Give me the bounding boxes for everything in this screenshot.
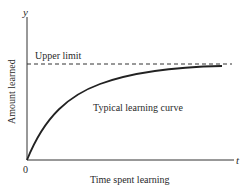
y-axis-title: Amount learned <box>6 59 17 124</box>
x-axis-title: Time spent learning <box>90 174 170 185</box>
upper-limit-label: Upper limit <box>35 50 82 61</box>
origin-label: 0 <box>23 164 28 175</box>
learning-curve-chart: y t 0 Upper limit Typical learning curve… <box>0 0 249 195</box>
curve-label: Typical learning curve <box>93 102 183 113</box>
x-axis-symbol: t <box>236 154 240 166</box>
learning-curve <box>27 66 222 160</box>
y-axis-symbol: y <box>22 6 28 18</box>
